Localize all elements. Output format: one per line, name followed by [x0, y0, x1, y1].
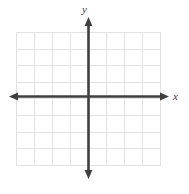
x-axis-right-arrowhead-icon: [160, 93, 169, 101]
coordinate-plane-figure: y x: [0, 0, 189, 194]
y-axis-up-arrowhead-icon: [85, 17, 93, 26]
x-axis-label: x: [173, 91, 178, 102]
x-axis-left-arrowhead-icon: [9, 93, 18, 101]
y-axis-label: y: [82, 4, 87, 15]
coordinate-plane-svg: [0, 0, 189, 194]
y-axis-down-arrowhead-icon: [85, 170, 93, 179]
